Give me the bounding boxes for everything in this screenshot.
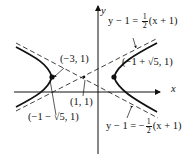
vertex-left <box>49 74 54 79</box>
vertex-left-label: (−3, 1) <box>60 53 89 64</box>
vertex-left-alt-label: (−1 − √5, 1) <box>28 111 79 122</box>
hyperbola-right-branch <box>114 43 157 112</box>
y-axis-label: y <box>101 5 106 16</box>
asymptote-positive-label: y − 1 = 12(x + 1) <box>108 13 178 30</box>
x-axis-label: x <box>171 83 176 94</box>
center-point <box>83 76 86 79</box>
vertex-right <box>111 74 116 79</box>
vertex-right-label: (−1 + √5, 1) <box>122 56 173 67</box>
hyperbola-left-branch <box>16 47 52 107</box>
center-label: (1, 1) <box>70 96 93 107</box>
asymptote-negative-label: y − 1 = −12(x + 1) <box>106 118 181 135</box>
